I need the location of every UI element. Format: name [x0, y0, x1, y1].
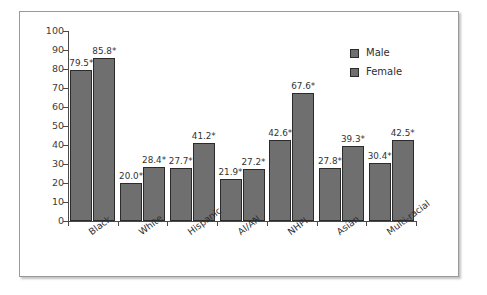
y-axis-tick-label: 100: [46, 26, 64, 36]
chart-legend: MaleFemale: [350, 48, 402, 86]
legend-item-male: Male: [350, 48, 402, 58]
y-axis-tick-label: 40: [52, 140, 64, 150]
bar-female-nhpi: [292, 93, 314, 221]
bar-value-label: 30.4*: [368, 152, 392, 161]
bar-male-asian: [319, 168, 341, 221]
bar-value-label: 67.6*: [291, 82, 315, 91]
legend-swatch-icon: [350, 49, 359, 58]
legend-label: Male: [366, 48, 390, 58]
bar-value-label: 27.2*: [242, 158, 266, 167]
y-axis-tick-label: 50: [52, 121, 64, 131]
legend-swatch-icon: [350, 68, 359, 77]
bar-female-white: [143, 167, 165, 221]
x-tick-mark: [118, 221, 119, 226]
y-axis-tick-label: 80: [52, 64, 64, 74]
bar-value-label: 79.5*: [69, 59, 93, 68]
bar-value-label: 28.4*: [142, 156, 166, 165]
bar-male-black: [70, 70, 92, 221]
y-axis-tick-label: 10: [52, 197, 64, 207]
bar-value-label: 27.7*: [169, 157, 193, 166]
legend-item-female: Female: [350, 67, 402, 77]
bar-value-label: 85.8*: [92, 47, 116, 56]
y-axis-tick-label: 60: [52, 102, 64, 112]
x-tick-mark: [217, 221, 218, 226]
bar-value-label: 42.6*: [268, 129, 292, 138]
y-axis-tick-label: 20: [52, 178, 64, 188]
bar-female-black: [93, 58, 115, 221]
bar-value-label: 27.8*: [318, 157, 342, 166]
y-axis-tick-label: 70: [52, 83, 64, 93]
x-tick-mark: [167, 221, 168, 226]
bar-value-label: 41.2*: [192, 132, 216, 141]
y-axis-tick-label: 90: [52, 45, 64, 55]
legend-label: Female: [366, 67, 402, 77]
bar-female-asian: [342, 146, 364, 221]
x-tick-mark: [267, 221, 268, 226]
y-axis-tick-label: 30: [52, 159, 64, 169]
bar-male-ai-an: [220, 179, 242, 221]
bar-value-label: 21.9*: [219, 168, 243, 177]
bar-male-hispanic: [170, 168, 192, 221]
bar-male-nhpi: [269, 140, 291, 221]
x-tick-mark: [68, 221, 69, 226]
bar-value-label: 20.0*: [119, 172, 143, 181]
y-axis-tick-label: 0: [58, 216, 64, 226]
x-tick-mark: [317, 221, 318, 226]
bar-value-label: 42.5*: [391, 129, 415, 138]
x-tick-mark: [366, 221, 367, 226]
bar-value-label: 39.3*: [341, 135, 365, 144]
bar-male-multi-racial: [369, 163, 391, 221]
bar-male-white: [120, 183, 142, 221]
x-tick-mark: [416, 221, 417, 226]
chart-figure: 1009080706050403020100 79.5*85.8*20.0*28…: [19, 11, 459, 277]
